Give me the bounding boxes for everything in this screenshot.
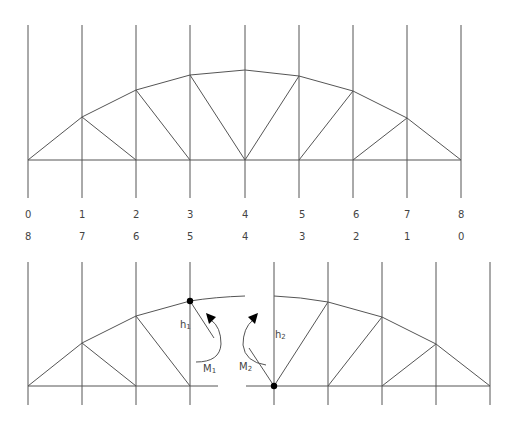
- svg-text:4: 4: [242, 231, 248, 242]
- node-labels-bottom-row: 8 7 6 5 4 3 2 1 0: [25, 231, 464, 242]
- truss-diagram: 0 1 2 3 4 5 6 7 8 8 7 6 5 4 3 2 1 0: [0, 0, 512, 428]
- arrowhead-icon: [248, 313, 258, 324]
- svg-text:6: 6: [133, 231, 139, 242]
- svg-text:3: 3: [299, 231, 305, 242]
- svg-text:4: 4: [242, 209, 248, 220]
- label-m2: M2: [239, 361, 252, 373]
- svg-text:0: 0: [25, 209, 31, 220]
- svg-text:3: 3: [187, 209, 193, 220]
- node-labels-top-row: 0 1 2 3 4 5 6 7 8: [25, 209, 464, 220]
- node-point-right: [271, 383, 277, 389]
- svg-text:0: 0: [458, 231, 464, 242]
- svg-text:1: 1: [79, 209, 85, 220]
- moment-arrow-m1: [196, 313, 221, 362]
- svg-text:2: 2: [133, 209, 139, 220]
- svg-text:6: 6: [353, 209, 359, 220]
- svg-text:8: 8: [25, 231, 31, 242]
- label-m1: M1: [203, 363, 216, 375]
- svg-text:1: 1: [404, 231, 410, 242]
- label-h2: h2: [275, 329, 286, 341]
- svg-text:5: 5: [299, 209, 305, 220]
- svg-text:7: 7: [404, 209, 410, 220]
- node-point-left: [187, 298, 193, 304]
- svg-text:2: 2: [353, 231, 359, 242]
- svg-text:8: 8: [458, 209, 464, 220]
- svg-text:7: 7: [79, 231, 85, 242]
- arrowhead-icon: [206, 313, 216, 324]
- left-section: [28, 262, 245, 405]
- full-truss: [28, 25, 461, 198]
- label-h1: h1: [180, 319, 191, 331]
- svg-text:5: 5: [187, 231, 193, 242]
